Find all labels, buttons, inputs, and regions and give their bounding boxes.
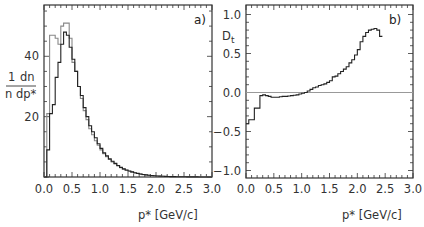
x-tick-label: 3.0 [203,182,221,196]
panel-b-line: b) 0.00.51.01.52.02.53.0 1.00.50.0−0.5−1… [213,5,422,222]
panel-a-series [44,23,212,177]
x-tick-label: 1.5 [119,182,137,196]
panel-b-x-tick-labels: 0.00.51.01.52.02.53.0 [237,182,422,196]
y-tick-label: 20 [24,110,39,124]
svg-text:n: n [5,87,12,101]
panel-b-y-axis-title: D t [222,29,235,45]
svg-text:1: 1 [8,70,15,84]
panel-a-y-axis-title: 1 dn n dp* [5,70,37,101]
y-tick-label: 0.5 [223,47,241,61]
y-tick-label: 1.0 [223,8,241,22]
panel-a-x-axis-title: p* [GeV/c] [138,208,198,222]
x-tick-label: 2.0 [348,182,366,196]
x-tick-label: 1.0 [293,182,311,196]
x-tick-label: 2.0 [147,182,165,196]
x-tick-label: 2.5 [376,182,394,196]
x-tick-label: 0.0 [237,182,255,196]
panel-a-histogram: a) 0.00.51.01.52.02.53.0 2040 1 dn n dp*… [5,5,221,222]
svg-text:dp*: dp* [16,87,37,101]
y-tick-label: 0.0 [223,86,241,100]
x-tick-label: 2.5 [175,182,193,196]
x-tick-label: 1.0 [91,182,109,196]
x-tick-label: 0.0 [35,182,53,196]
svg-text:dn: dn [20,70,35,84]
histogram-dark [44,32,212,177]
panel-b-label: b) [389,13,401,27]
panel-a-label: a) [194,13,206,27]
y-tick-label: −0.5 [213,125,241,139]
panel-b-series [246,29,382,124]
panel-b-x-axis-title: p* [GeV/c] [342,208,402,222]
x-tick-label: 0.5 [265,182,283,196]
x-tick-label: 3.0 [404,182,422,196]
panel-b-frame [246,5,413,178]
svg-text:D: D [222,29,231,43]
panel-a-x-tick-labels: 0.00.51.01.52.02.53.0 [35,182,221,196]
panel-b-ticks [246,5,413,178]
figure: a) 0.00.51.01.52.02.53.0 2040 1 dn n dp*… [0,0,424,227]
x-tick-label: 0.5 [63,182,81,196]
y-tick-label: −1.0 [213,164,241,178]
svg-text:t: t [231,35,235,45]
x-tick-label: 1.5 [320,182,338,196]
dt-curve [246,29,382,124]
y-tick-label: 40 [24,49,39,63]
